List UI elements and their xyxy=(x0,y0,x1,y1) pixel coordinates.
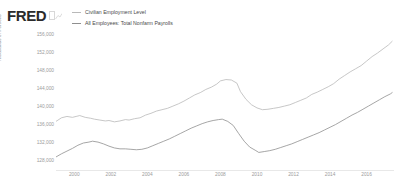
legend-swatch-nonfarm-payrolls xyxy=(72,23,81,24)
chart-header: FRED Civilian Employment Level All Emplo… xyxy=(0,0,398,28)
x-tick-label: 2014 xyxy=(325,172,336,177)
plot-svg xyxy=(56,26,394,170)
y-tick-label: 140,000 xyxy=(20,104,54,109)
x-tick-label: 2006 xyxy=(179,172,190,177)
legend-swatch-civilian-employment xyxy=(72,12,81,13)
y-tick-label: 132,000 xyxy=(20,140,54,145)
y-tick-label: 136,000 xyxy=(20,122,54,127)
series-line xyxy=(56,41,392,122)
y-tick-label: 152,000 xyxy=(20,50,54,55)
x-tick-label: 2008 xyxy=(215,172,226,177)
x-tick-label: 2016 xyxy=(361,172,372,177)
series-line xyxy=(56,93,392,157)
fred-logo: FRED xyxy=(7,7,46,24)
legend-label-civilian-employment: Civilian Employment Level xyxy=(85,8,146,17)
y-tick-label: 144,000 xyxy=(20,86,54,91)
legend-item[interactable]: Civilian Employment Level xyxy=(72,8,173,17)
plot-area xyxy=(56,26,394,170)
x-axis-line xyxy=(56,170,394,171)
y-axis-ticks: 128,000132,000136,000140,000144,000148,0… xyxy=(16,26,54,170)
y-tick-label: 128,000 xyxy=(20,158,54,163)
y-axis-title: Thousands of Persons xyxy=(0,0,2,62)
x-tick-label: 2004 xyxy=(142,172,153,177)
y-tick-label: 156,000 xyxy=(20,32,54,37)
x-tick-label: 2010 xyxy=(252,172,263,177)
x-tick-label: 2000 xyxy=(69,172,80,177)
y-tick-label: 148,000 xyxy=(20,68,54,73)
x-axis-ticks: 200020022004200620082010201220142016 xyxy=(56,172,394,182)
x-tick-label: 2002 xyxy=(105,172,116,177)
fred-chart: FRED Civilian Employment Level All Emplo… xyxy=(0,0,398,188)
x-tick-label: 2012 xyxy=(288,172,299,177)
fred-chart-mark-icon xyxy=(49,11,62,20)
